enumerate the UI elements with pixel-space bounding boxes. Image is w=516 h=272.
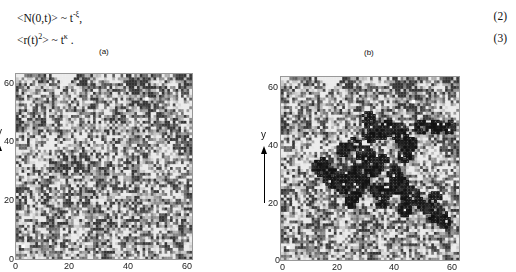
x-tick-40-b: 40 [389, 262, 399, 272]
y-tick-60: 60 [4, 78, 14, 88]
equation-3: <r(t)2> ~ tκ . [17, 32, 74, 46]
y-tick-40-b: 40 [268, 140, 278, 150]
lattice-plot-a [16, 74, 192, 259]
y-axis-label-a: y [0, 126, 2, 137]
y-tick-20-b: 20 [268, 198, 278, 208]
equation-2: <N(0,t)> ~ t-ξ, [17, 10, 82, 24]
equation-3-lhs: <r(t) [17, 34, 38, 46]
y-tick-20: 20 [4, 195, 14, 205]
y-tick-40: 40 [4, 136, 14, 146]
x-tick-20: 20 [64, 261, 74, 271]
equation-3-mid: > ~ t [42, 34, 64, 46]
y-arrow-shaft-b [264, 153, 266, 203]
x-tick-40: 40 [123, 261, 133, 271]
x-tick-0-b: 0 [280, 262, 285, 272]
equation-3-tail: . [68, 34, 74, 46]
equation-2-tail: , [79, 12, 82, 24]
equation-2-lhs: <N(0,t)> ~ t [17, 12, 73, 24]
y-arrow-icon-a [0, 143, 2, 151]
x-tick-0: 0 [13, 261, 18, 271]
lattice-canvas-b [281, 77, 459, 260]
y-tick-60-b: 60 [268, 82, 278, 92]
x-tick-20-b: 20 [332, 262, 342, 272]
y-axis-label-b: y [261, 129, 266, 140]
x-tick-60: 60 [182, 261, 192, 271]
x-tick-60-b: 60 [447, 262, 457, 272]
panel-a-label: (a) [99, 47, 109, 56]
equation-3-number: (3) [494, 32, 507, 44]
lattice-plot-b [281, 77, 459, 260]
panel-b-label: (b) [364, 48, 374, 57]
lattice-canvas-a [16, 74, 192, 259]
equation-2-number: (2) [494, 10, 507, 22]
